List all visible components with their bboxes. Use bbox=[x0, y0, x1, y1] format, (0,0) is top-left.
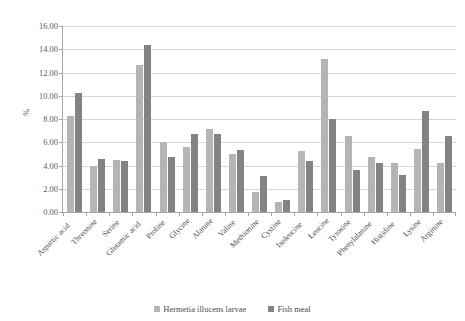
bar-group bbox=[86, 26, 109, 212]
x-axis-labels: Aspartic acidThreonineSerineGlutamic aci… bbox=[62, 214, 455, 300]
bar bbox=[136, 65, 143, 212]
bar bbox=[160, 142, 167, 212]
bar bbox=[67, 116, 74, 212]
bar bbox=[422, 111, 429, 212]
bar-group bbox=[63, 26, 86, 212]
bar-chart: % 0.002.004.006.008.0010.0012.0014.0016.… bbox=[0, 0, 465, 321]
bar bbox=[90, 166, 97, 213]
y-axis-tick-label: 14.00 bbox=[14, 45, 58, 54]
bar-group bbox=[179, 26, 202, 212]
bar bbox=[237, 150, 244, 212]
bar bbox=[183, 147, 190, 212]
bar-group bbox=[202, 26, 225, 212]
bar-groups bbox=[63, 26, 456, 212]
x-axis-tick-mark bbox=[455, 212, 456, 216]
bar-group bbox=[109, 26, 132, 212]
bar bbox=[329, 119, 336, 212]
bar bbox=[144, 45, 151, 212]
bar bbox=[275, 202, 282, 212]
bar-group bbox=[225, 26, 248, 212]
y-axis-tick-label: 16.00 bbox=[14, 22, 58, 31]
x-axis-tick-label: Serine bbox=[101, 218, 121, 238]
bar bbox=[121, 161, 128, 212]
legend-swatch-icon bbox=[154, 306, 160, 312]
bar bbox=[298, 151, 305, 212]
x-axis-tick-label: Threonine bbox=[70, 218, 99, 247]
bar bbox=[345, 136, 352, 212]
x-axis-tick-label: Valine bbox=[217, 218, 237, 238]
y-axis-tick-label: 12.00 bbox=[14, 69, 58, 78]
bar bbox=[306, 161, 313, 212]
legend-label: Fish meal bbox=[277, 304, 310, 314]
legend-label: Hermetia illucens larvae bbox=[163, 304, 246, 314]
y-axis-tick-label: 4.00 bbox=[14, 162, 58, 171]
y-axis-tick-label: 10.00 bbox=[14, 92, 58, 101]
bar-group bbox=[410, 26, 433, 212]
bar bbox=[113, 160, 120, 212]
y-axis-tick-label: 0.00 bbox=[14, 208, 58, 217]
legend-item[interactable]: Hermetia illucens larvae bbox=[154, 304, 246, 314]
bar bbox=[206, 129, 213, 212]
bar bbox=[368, 157, 375, 212]
bar bbox=[321, 59, 328, 212]
bar-group bbox=[433, 26, 456, 212]
bar-group bbox=[271, 26, 294, 212]
chart-legend: Hermetia illucens larvaeFish meal bbox=[0, 304, 465, 314]
bar bbox=[376, 163, 383, 212]
bar-group bbox=[156, 26, 179, 212]
bar-group bbox=[364, 26, 387, 212]
x-axis-tick-label: Histidine bbox=[370, 220, 396, 246]
x-axis-tick-label: Arginine bbox=[419, 218, 445, 244]
y-axis-tick-label: 6.00 bbox=[14, 138, 58, 147]
bar-group bbox=[317, 26, 340, 212]
bar bbox=[75, 93, 82, 212]
bar bbox=[252, 192, 259, 212]
bar bbox=[191, 134, 198, 212]
bar-group bbox=[132, 26, 155, 212]
legend-item[interactable]: Fish meal bbox=[268, 304, 310, 314]
legend-swatch-icon bbox=[268, 306, 274, 312]
bar bbox=[260, 176, 267, 212]
bar bbox=[168, 157, 175, 212]
bar bbox=[391, 163, 398, 212]
x-axis-tick-label: Proline bbox=[145, 219, 167, 241]
bar bbox=[229, 154, 236, 212]
bar bbox=[437, 163, 444, 212]
x-axis-tick-label: Glycine bbox=[168, 217, 192, 241]
y-axis-tick-label: 2.00 bbox=[14, 185, 58, 194]
bar bbox=[283, 200, 290, 212]
bar-group bbox=[294, 26, 317, 212]
x-axis-tick-label: Alanine bbox=[191, 217, 215, 241]
bar bbox=[399, 175, 406, 212]
bar-group bbox=[387, 26, 410, 212]
x-axis-tick-label: Aspartic acid bbox=[36, 222, 72, 258]
bar bbox=[214, 134, 221, 212]
plot-area bbox=[62, 26, 456, 213]
bar bbox=[445, 136, 452, 212]
bar bbox=[414, 149, 421, 212]
bar-group bbox=[248, 26, 271, 212]
bar bbox=[98, 159, 105, 212]
bar-group bbox=[341, 26, 364, 212]
y-axis-title: % bbox=[22, 105, 31, 121]
bar bbox=[353, 170, 360, 212]
